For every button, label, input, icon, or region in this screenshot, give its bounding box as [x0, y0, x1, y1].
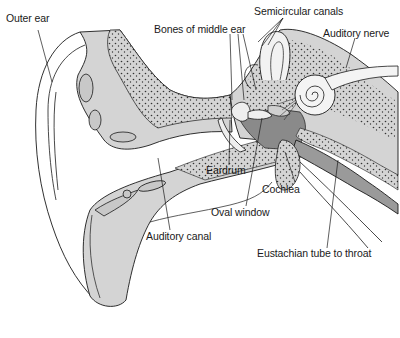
label-cochlea: Cochlea [262, 184, 300, 195]
upper-tissue [77, 30, 232, 149]
label-outer-ear: Outer ear [6, 13, 49, 24]
label-auditory-nerve: Auditory nerve [323, 28, 389, 39]
label-auditory-canal: Auditory canal [146, 231, 211, 242]
label-eardrum: Eardrum [206, 165, 246, 176]
label-eustachian-tube: Eustachian tube to throat [257, 248, 371, 259]
label-oval-window: Oval window [211, 207, 269, 218]
ear-anatomy-diagram [0, 0, 400, 338]
lower-tissue [83, 138, 300, 306]
label-semicircular-canals: Semicircular canals [254, 6, 343, 17]
label-bones-middle-ear: Bones of middle ear [154, 24, 246, 35]
